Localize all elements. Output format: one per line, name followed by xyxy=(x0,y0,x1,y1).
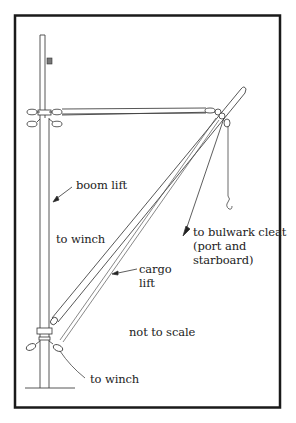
topping-lift-span xyxy=(62,108,218,115)
label-boom-lift: boom lift xyxy=(76,178,127,192)
label-to-bulwark-line2: (port and xyxy=(193,239,246,253)
cargo-lift-pointer xyxy=(112,269,137,275)
lower-winch-lead xyxy=(60,351,85,378)
label-cargo-lift-line2: lift xyxy=(139,276,155,290)
upper-mast-fitting xyxy=(27,109,62,127)
rigging-drawing xyxy=(0,0,296,423)
cargo-boom xyxy=(49,87,246,326)
cargo-whip xyxy=(227,126,232,209)
mast-light-icon xyxy=(47,58,52,64)
lower-mast-fitting xyxy=(25,328,64,353)
label-not-to-scale: not to scale xyxy=(129,325,195,339)
label-to-winch-lower: to winch xyxy=(90,372,139,386)
boom-lift-pointer xyxy=(53,187,72,202)
arrow-head-icon xyxy=(183,226,190,236)
label-to-bulwark-line3: starboard) xyxy=(193,253,253,267)
cargo-hook-icon xyxy=(227,196,232,209)
label-cargo-lift-line1: cargo xyxy=(139,262,172,276)
label-to-bulwark-line1: to bulwark cleat xyxy=(193,225,286,239)
rigging-diagram: boom lift to winch to bulwark cleat (por… xyxy=(0,0,296,423)
label-to-winch-upper: to winch xyxy=(56,232,105,246)
